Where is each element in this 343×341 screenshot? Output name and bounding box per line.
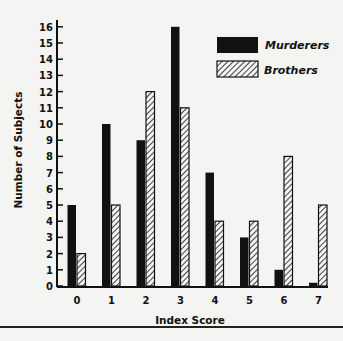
x-axis-ticks: 01234567 <box>74 295 323 306</box>
x-axis-title: Index Score <box>155 314 225 326</box>
bar-brothers-7 <box>319 205 328 286</box>
legend: Murderers Brothers <box>217 37 330 77</box>
bar-brothers-5 <box>250 221 259 286</box>
y-tick-label: 2 <box>46 249 53 260</box>
y-tick-label: 5 <box>46 200 53 211</box>
y-axis-ticks: 012345678910111213141516 <box>39 22 63 292</box>
x-tick-label: 2 <box>143 295 150 306</box>
x-tick-label: 1 <box>108 295 115 306</box>
x-tick-label: 0 <box>74 295 81 306</box>
bar-murderers-7 <box>309 283 318 286</box>
y-tick-label: 15 <box>39 38 53 49</box>
y-tick-label: 14 <box>39 54 53 65</box>
y-tick-label: 6 <box>46 184 53 195</box>
y-tick-label: 10 <box>39 119 53 130</box>
bar-murderers-0 <box>68 205 77 286</box>
bar-brothers-2 <box>146 92 155 286</box>
y-tick-label: 4 <box>46 216 53 227</box>
y-tick-label: 11 <box>39 103 53 114</box>
y-tick-label: 1 <box>46 265 53 276</box>
y-tick-label: 12 <box>39 87 53 98</box>
legend-label-brothers: Brothers <box>264 64 318 77</box>
x-tick-label: 3 <box>177 295 184 306</box>
x-tick-label: 4 <box>212 295 219 306</box>
y-tick-label: 16 <box>39 22 53 33</box>
bar-murderers-6 <box>275 270 284 286</box>
bar-murderers-3 <box>171 27 180 286</box>
bar-brothers-6 <box>284 156 293 286</box>
bar-brothers-0 <box>77 254 86 286</box>
legend-swatch-brothers <box>217 61 258 77</box>
x-tick-label: 7 <box>315 295 322 306</box>
x-tick-label: 5 <box>246 295 253 306</box>
y-tick-label: 9 <box>46 135 53 146</box>
bar-murderers-2 <box>137 140 146 286</box>
bar-murderers-5 <box>240 237 249 286</box>
bar-chart: 012345678910111213141516 01234567 Index … <box>0 0 343 341</box>
y-tick-label: 8 <box>46 151 53 162</box>
x-tick-label: 6 <box>281 295 288 306</box>
legend-swatch-murderers <box>217 37 258 53</box>
y-tick-label: 0 <box>46 281 53 292</box>
bar-brothers-4 <box>215 221 224 286</box>
page-divider <box>0 326 343 328</box>
y-axis-title: Number of Subjects <box>12 92 24 209</box>
bar-murderers-1 <box>102 124 111 286</box>
y-tick-label: 3 <box>46 232 53 243</box>
bar-murderers-4 <box>206 173 215 286</box>
legend-label-murderers: Murderers <box>265 39 330 52</box>
y-tick-label: 13 <box>39 70 53 81</box>
bar-brothers-3 <box>181 108 190 286</box>
y-tick-label: 7 <box>46 168 53 179</box>
bar-brothers-1 <box>112 205 121 286</box>
